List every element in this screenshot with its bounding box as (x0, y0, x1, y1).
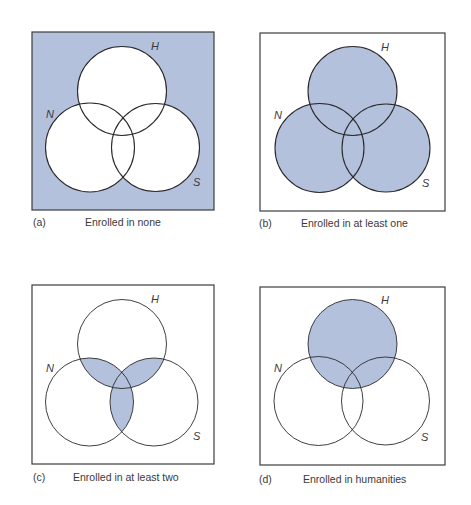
set-label-N: N (46, 362, 54, 374)
set-label-H: H (381, 294, 389, 306)
caption-text-a: Enrolled in none (85, 216, 161, 228)
caption-letter-b: (b) (259, 217, 272, 229)
venn-diagrams-canvas: HNSHNSHNSHNS (0, 0, 471, 505)
caption-text-d: Enrolled in humanities (303, 473, 406, 485)
set-label-S: S (193, 430, 201, 442)
venn-panel-b: HNS (260, 33, 445, 211)
set-label-H: H (381, 41, 389, 53)
caption-letter-d: (d) (259, 473, 272, 485)
caption-letter-a: (a) (33, 216, 46, 228)
venn-figure: HNSHNSHNSHNS (a) Enrolled in none (b) En… (0, 0, 471, 505)
set-label-H: H (151, 40, 159, 52)
set-label-S: S (421, 431, 429, 443)
caption-text-c: Enrolled in at least two (73, 471, 179, 483)
set-label-N: N (274, 362, 282, 374)
caption-letter-c: (c) (33, 471, 45, 483)
set-label-N: N (274, 109, 282, 121)
set-label-H: H (151, 293, 159, 305)
set-label-N: N (46, 108, 54, 120)
set-label-S: S (422, 177, 430, 189)
caption-text-b: Enrolled in at least one (301, 217, 408, 229)
venn-panel-c: HNS (32, 285, 214, 464)
venn-panel-d: HNS (260, 287, 445, 465)
venn-panel-a: HNS (32, 32, 214, 210)
set-label-S: S (193, 176, 201, 188)
